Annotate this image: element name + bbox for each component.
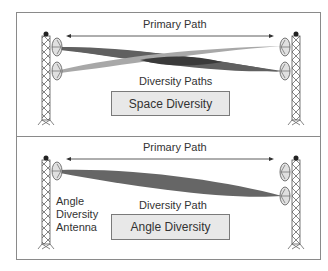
dish-right-upper-bottom (280, 163, 290, 181)
antenna-label-line3: Antenna (56, 221, 97, 233)
angle-diversity-beam (60, 170, 282, 197)
angle-diversity-box: Angle Diversity (111, 214, 230, 240)
primary-path-label-top: Primary Path (143, 18, 207, 30)
tower-left-bottom (38, 156, 54, 250)
dish-right-lower-bottom (280, 187, 290, 205)
dish-left-lower-top (52, 62, 62, 80)
space-diversity-box: Space Diversity (111, 91, 230, 116)
dish-left-angle-diversity (52, 162, 62, 180)
diversity-path-label: Diversity Path (139, 199, 207, 211)
tower-right-top (288, 32, 304, 126)
primary-path-arrow-top (66, 34, 274, 38)
tower-right-bottom (288, 156, 304, 250)
antenna-label-line1: Angle (56, 195, 84, 207)
primary-path-label-bottom: Primary Path (143, 141, 207, 153)
space-diversity-beams (60, 46, 282, 73)
diversity-paths-label: Diversity Paths (139, 75, 212, 87)
dish-left-upper-top (52, 38, 62, 56)
antenna-label-line2: Diversity (56, 208, 98, 220)
tower-left-top (38, 32, 54, 126)
dish-right-upper-top (280, 38, 290, 56)
primary-path-arrow-bottom (66, 157, 274, 161)
dish-right-lower-top (280, 62, 290, 80)
